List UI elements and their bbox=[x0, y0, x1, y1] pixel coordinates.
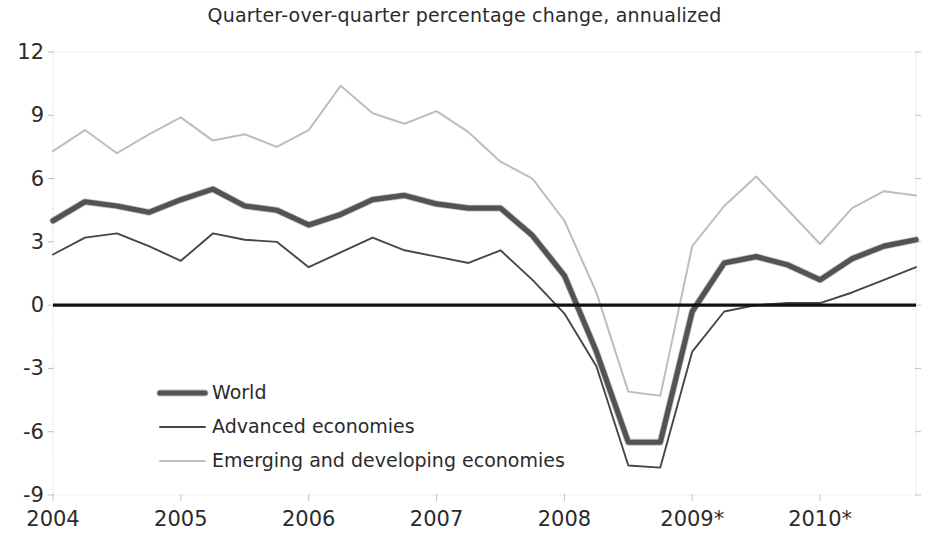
legend-label-0: World bbox=[212, 381, 266, 403]
x-tick-label: 2010* bbox=[788, 507, 852, 531]
series-lines bbox=[53, 86, 916, 468]
y-tick-label: 0 bbox=[0, 293, 44, 317]
y-tick-label: 6 bbox=[0, 167, 44, 191]
legend-label-1: Advanced economies bbox=[212, 415, 415, 437]
x-tick-label: 2008 bbox=[538, 507, 591, 531]
y-tick-label: -9 bbox=[0, 483, 44, 507]
y-tick-label: 9 bbox=[0, 103, 44, 127]
y-tick-label: -3 bbox=[0, 356, 44, 380]
x-tick-label: 2009* bbox=[660, 507, 724, 531]
footnote bbox=[24, 546, 384, 552]
x-tick-label: 2004 bbox=[26, 507, 79, 531]
y-tick-label: 12 bbox=[0, 40, 44, 64]
legend-label-2: Emerging and developing economies bbox=[212, 449, 565, 471]
x-tick-label: 2007 bbox=[410, 507, 463, 531]
y-tick-label: 3 bbox=[0, 230, 44, 254]
x-tick-label: 2006 bbox=[282, 507, 335, 531]
y-tick-label: -6 bbox=[0, 420, 44, 444]
x-tick-label: 2005 bbox=[154, 507, 207, 531]
chart-figure: Quarter-over-quarter percentage change, … bbox=[0, 0, 929, 552]
legend-swatches bbox=[160, 393, 205, 461]
series-line-1 bbox=[53, 233, 916, 467]
series-line-halo bbox=[53, 189, 916, 442]
series-line-2 bbox=[53, 86, 916, 396]
series-line-0 bbox=[53, 189, 916, 442]
